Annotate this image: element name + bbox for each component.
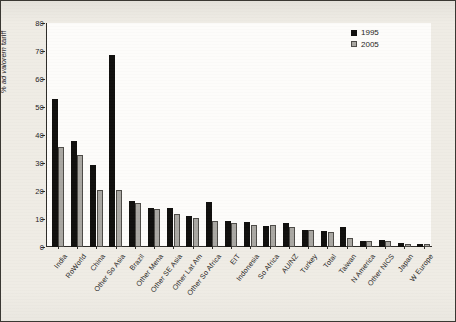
legend-swatch-1995 xyxy=(351,30,357,36)
legend-label-1995: 1995 xyxy=(361,28,379,37)
legend-item-1995: 1995 xyxy=(351,28,379,37)
legend-swatch-2005 xyxy=(351,41,357,47)
x-axis-label: India xyxy=(52,252,69,270)
legend-label-2005: 2005 xyxy=(361,40,379,49)
legend-item-2005: 2005 xyxy=(351,40,379,49)
x-axis-label: AU/NZ xyxy=(279,252,300,275)
chart-figure: 01020304050607080 % ad valorem tariff In… xyxy=(0,0,456,322)
x-axis-label: Turkey xyxy=(298,252,319,275)
chart-legend: 1995 2005 xyxy=(351,28,379,51)
x-axis-label: Total xyxy=(322,252,339,270)
x-axis-label: EIT xyxy=(228,252,242,267)
x-axis-labels: IndiaRoWorldChinaOther So AsiaBrazilOthe… xyxy=(1,1,456,322)
